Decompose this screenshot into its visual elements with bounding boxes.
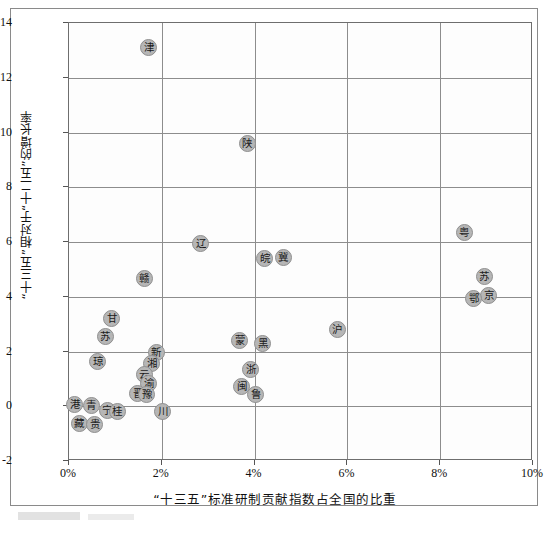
y-tick-label: 2 [0, 345, 12, 357]
y-axis-title: “十三五”相对于“十二五”的增长率 [18, 110, 36, 299]
data-point[interactable]: 桂 [109, 403, 126, 420]
x-tick-label: 4% [231, 467, 277, 479]
gridline-horizontal [69, 133, 531, 134]
y-tick-label: -2 [0, 454, 12, 466]
scatter-chart-figure: “十三五”相对于“十二五”的增长率 “十三五”标准研制贡献指数占全国的比重 0%… [0, 0, 550, 534]
gridline-horizontal [69, 242, 531, 243]
data-point[interactable]: 贵 [86, 416, 103, 433]
y-tick-label: 4 [0, 290, 12, 302]
data-point[interactable]: 鄂 [465, 290, 482, 307]
data-point[interactable]: 甘 [103, 310, 120, 327]
data-point[interactable]: 豫 [138, 386, 155, 403]
gridline-vertical [440, 23, 441, 459]
data-point[interactable]: 辽 [192, 235, 209, 252]
x-tick-label: 2% [138, 467, 184, 479]
gridline-horizontal [69, 187, 531, 188]
data-point[interactable]: 沪 [329, 321, 346, 338]
gridline-vertical [162, 23, 163, 459]
gridline-horizontal [69, 297, 531, 298]
data-point[interactable]: 陕 [239, 135, 256, 152]
y-tick-label: 8 [0, 180, 12, 192]
x-tick-mark [532, 460, 533, 465]
data-point[interactable]: 京 [480, 287, 497, 304]
data-point[interactable]: 粤 [456, 224, 473, 241]
data-point[interactable]: 浙 [242, 361, 259, 378]
data-point[interactable]: 黑 [254, 335, 271, 352]
x-tick-mark [161, 460, 162, 465]
y-tick-mark [63, 460, 68, 461]
y-tick-label: 12 [0, 71, 12, 83]
data-point[interactable]: 冀 [275, 249, 292, 266]
y-tick-label: 10 [0, 126, 12, 138]
data-point[interactable]: 川 [154, 403, 171, 420]
data-point[interactable]: 津 [140, 39, 157, 56]
plot-area: 津陕粤辽皖冀苏赣京鄂甘沪苏蒙黑新琼湘浙云渝闽晋豫鲁港青宁桂川藏贵 [68, 22, 532, 460]
data-point[interactable]: 港 [66, 396, 83, 413]
data-point[interactable]: 皖 [256, 250, 273, 267]
y-tick-label: 6 [0, 235, 12, 247]
scan-artifact-2 [88, 514, 134, 520]
x-tick-mark [254, 460, 255, 465]
x-tick-label: 8% [416, 467, 462, 479]
x-tick-label: 6% [323, 467, 369, 479]
data-point[interactable]: 赣 [136, 270, 153, 287]
gridline-horizontal [69, 352, 531, 353]
x-axis-title: “十三五”标准研制贡献指数占全国的比重 [0, 489, 550, 508]
data-point[interactable]: 青 [83, 397, 100, 414]
data-point[interactable]: 蒙 [231, 332, 248, 349]
gridline-horizontal [69, 78, 531, 79]
x-tick-label: 10% [509, 467, 550, 479]
data-point[interactable]: 鲁 [247, 386, 264, 403]
gridline-vertical [347, 23, 348, 459]
x-tick-mark [346, 460, 347, 465]
x-tick-mark [439, 460, 440, 465]
data-point[interactable]: 藏 [71, 415, 88, 432]
scan-artifact-1 [18, 512, 80, 520]
data-point[interactable]: 琼 [89, 353, 106, 370]
x-tick-label: 0% [45, 467, 91, 479]
data-point[interactable]: 苏 [97, 328, 114, 345]
y-tick-label: 14 [0, 16, 12, 28]
gridline-horizontal [69, 406, 531, 407]
data-point[interactable]: 苏 [476, 268, 493, 285]
y-tick-label: 0 [0, 399, 12, 411]
x-tick-mark [68, 460, 69, 465]
